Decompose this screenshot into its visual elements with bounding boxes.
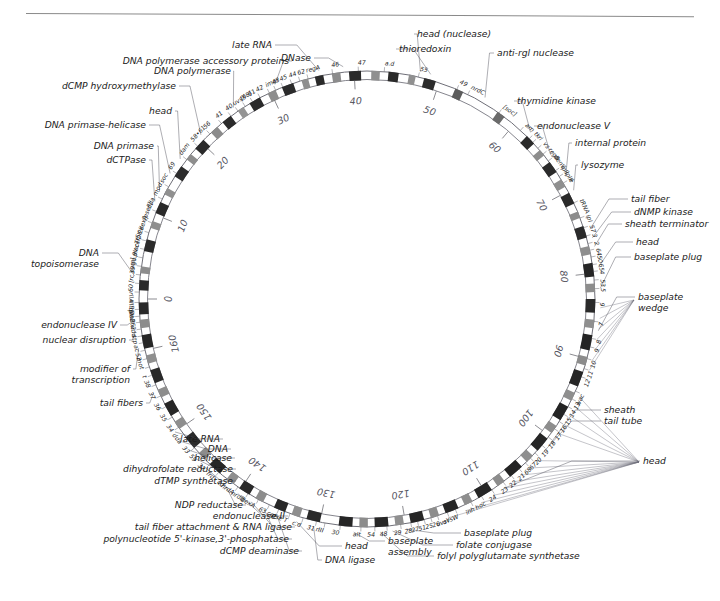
gene-tick-label: 69 bbox=[166, 160, 176, 170]
coordinate-label: 90 bbox=[552, 344, 566, 359]
function-label: dTMP synthetase bbox=[154, 475, 233, 486]
gene-tick-label: 30 bbox=[331, 528, 340, 536]
gene-tick-label: 53 bbox=[600, 279, 608, 287]
function-label: head bbox=[345, 540, 368, 551]
gene-tick-label: 41 bbox=[214, 109, 224, 119]
function-label: DNA bbox=[208, 443, 228, 454]
function-label: wedge bbox=[638, 302, 669, 313]
function-label: head bbox=[149, 105, 172, 116]
coordinate-label: 110 bbox=[460, 459, 481, 478]
gene-tick-label: 31 bbox=[307, 523, 316, 532]
t4-genetic-map-figure: 454462regA4647a.d5549nrdC[soc]arntkrlvsr… bbox=[0, 0, 720, 601]
function-label: dNMP kinase bbox=[634, 206, 693, 217]
gene-tick-label: 55 bbox=[420, 65, 429, 74]
function-label: DNA bbox=[79, 247, 99, 258]
coordinate-label: 20 bbox=[215, 154, 231, 170]
gene-tick-label: nrdC bbox=[470, 83, 487, 96]
gene-tick-label: 5 bbox=[600, 288, 607, 292]
function-label: nuclear disruption bbox=[43, 334, 127, 345]
coordinate-labels: 0102030405060708090100110120130140150160 bbox=[163, 95, 570, 502]
coordinate-label: 60 bbox=[487, 139, 503, 155]
function-label: dCTPase bbox=[107, 154, 147, 165]
gene-tick-label: 18 bbox=[547, 439, 557, 450]
coordinate-label: 30 bbox=[275, 111, 291, 126]
gene-tick-label: regA bbox=[305, 63, 321, 74]
gene-tick-label: 6 bbox=[599, 302, 606, 306]
function-label: folyl polyglutamate synthetase bbox=[437, 550, 580, 561]
gene-tick-label: DI bbox=[129, 310, 137, 317]
gene-tick-label: 54 bbox=[367, 531, 375, 538]
function-label: NDP reductase bbox=[175, 499, 244, 510]
coordinate-label: 150 bbox=[194, 401, 213, 422]
function-label: thioredoxin bbox=[399, 43, 451, 54]
function-label: internal protein bbox=[575, 137, 646, 148]
coordinate-label: 160 bbox=[166, 334, 181, 354]
function-label: head bbox=[643, 455, 666, 466]
gene-tick-label: 37 bbox=[148, 390, 158, 400]
gene-tick-label: 19 bbox=[540, 448, 550, 459]
gene-tick-label: 36 bbox=[153, 402, 163, 412]
function-label: dCMP deaminase bbox=[220, 545, 299, 556]
function-label: modifier of bbox=[80, 363, 132, 374]
function-label: DNA polymerase accessory proteins bbox=[123, 55, 290, 66]
gene-tick-label: rIII bbox=[315, 525, 324, 533]
gene-tick-label: 49 bbox=[459, 78, 469, 88]
coordinate-label: 140 bbox=[246, 455, 267, 474]
function-label: assembly bbox=[388, 546, 432, 557]
function-label: sheath bbox=[604, 404, 635, 415]
function-label: topoisomerase bbox=[31, 258, 99, 269]
function-label: thymidine kinase bbox=[517, 95, 596, 106]
coordinate-label: 80 bbox=[558, 270, 570, 283]
gene-tick-label: hoc bbox=[474, 499, 488, 511]
coordinate-label: 40 bbox=[349, 95, 362, 107]
function-label: sheath terminator bbox=[625, 218, 709, 229]
function-label: head bbox=[636, 236, 659, 247]
gene-tick-label: 9 bbox=[593, 348, 601, 353]
gene-tick-label: 60 bbox=[127, 284, 134, 292]
gene-tick-label: 4 bbox=[599, 270, 606, 275]
gene-tick-label: rIIA bbox=[128, 292, 135, 302]
coordinate-label: 70 bbox=[534, 197, 549, 213]
gene-tick-label: 48 bbox=[379, 530, 387, 538]
gene-tick-label: arn bbox=[524, 121, 536, 133]
gene-tick-label: ipI bbox=[584, 214, 594, 224]
gene-tick-label: c.d bbox=[291, 519, 302, 528]
gene-tick-label: 33 bbox=[181, 444, 191, 455]
function-label: endonuclease IV bbox=[41, 319, 118, 330]
coordinate-label: 130 bbox=[316, 486, 336, 501]
gene-tick-label: t bbox=[141, 374, 149, 379]
gene-tick-label: a.d bbox=[385, 59, 395, 67]
function-label: DNA ligase bbox=[325, 554, 376, 565]
gene-tick-label: alt bbox=[353, 530, 362, 537]
function-label: lysozyme bbox=[581, 159, 625, 170]
function-label: tail tube bbox=[604, 415, 643, 426]
gene-tick-label: 34 bbox=[165, 423, 175, 433]
gene-tick-label: 47 bbox=[358, 59, 366, 66]
gene-tick-label: 28 bbox=[404, 526, 413, 534]
gene-tick-label: 35 bbox=[159, 412, 169, 422]
map-canvas: 454462regA4647a.d5549nrdC[soc]arntkrlvsr… bbox=[0, 0, 720, 601]
function-label: baseplate bbox=[638, 291, 684, 302]
gene-tick-label: 11 bbox=[585, 370, 594, 380]
function-label: endonuclease II bbox=[213, 510, 286, 521]
gene-tick-label: 7 bbox=[597, 322, 604, 327]
gene-tick-label: dda bbox=[145, 196, 156, 210]
function-label: head (nuclease) bbox=[417, 28, 491, 39]
gene-tick-label: 10 bbox=[589, 360, 598, 369]
function-label: tail fiber bbox=[631, 193, 671, 204]
function-label: late RNA bbox=[232, 39, 272, 50]
coordinate-label: 50 bbox=[422, 104, 437, 118]
gene-tick-label: soc bbox=[158, 171, 169, 184]
gene-tick-label: tRNA bbox=[579, 198, 592, 215]
gene-tick-label: 39 bbox=[128, 266, 136, 275]
gene-tick-label: 24 bbox=[487, 493, 497, 503]
function-label: DNA polymerase bbox=[154, 65, 231, 76]
coordinate-label: 100 bbox=[516, 407, 536, 428]
function-label: dihydrofolate reductase bbox=[123, 463, 233, 474]
function-label: polynucleotide 5'-kinase,3'-phosphatase bbox=[102, 533, 289, 544]
function-label: tail fiber attachment & RNA ligase bbox=[135, 521, 293, 532]
function-label: DNA primase-helicase bbox=[45, 119, 147, 130]
gene-tick-label: dam bbox=[177, 141, 191, 156]
function-label: DNA primase bbox=[94, 140, 155, 151]
function-label: baseplate plug bbox=[464, 527, 532, 538]
